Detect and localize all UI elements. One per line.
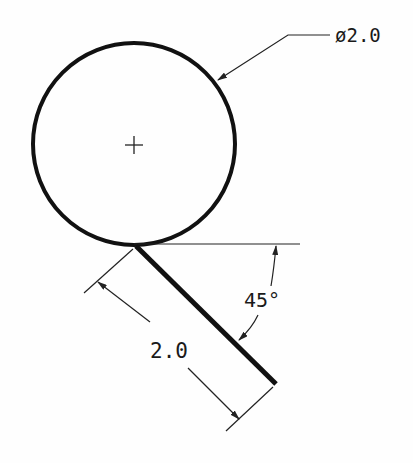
diameter-leader — [218, 35, 330, 80]
angle-label: 45° — [244, 288, 280, 312]
diameter-label: ø2.0 — [335, 24, 381, 46]
angled-line-geometry — [136, 246, 276, 384]
drawing-svg: ø2.0 45° 2.0 — [0, 0, 413, 463]
center-mark-icon — [125, 136, 143, 154]
length-label: 2.0 — [150, 339, 188, 363]
cad-drawing: ø2.0 45° 2.0 — [0, 0, 413, 463]
